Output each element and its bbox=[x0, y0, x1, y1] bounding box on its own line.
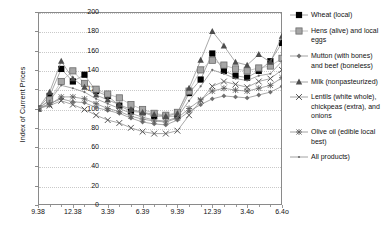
legend-marker-asterisk-icon bbox=[290, 127, 308, 136]
legend-label: Hens (alive) and local eggs bbox=[308, 26, 384, 45]
chart-legend: Wheat (local)Hens (alive) and local eggs… bbox=[290, 10, 384, 168]
legend-item[interactable]: Milk (nonpasteurized) bbox=[290, 77, 384, 86]
x-minor-tick bbox=[61, 205, 62, 207]
x-minor-tick bbox=[84, 205, 85, 207]
x-minor-tick bbox=[282, 205, 283, 207]
x-minor-tick bbox=[73, 205, 74, 207]
x-minor-tick bbox=[177, 205, 178, 207]
x-minor-tick bbox=[189, 205, 190, 207]
x-tick-label: 6.4o bbox=[262, 208, 302, 215]
legend-item[interactable]: Olive oil (edible local best) bbox=[290, 127, 384, 146]
y-axis-title: Index of Current Prices bbox=[18, 25, 27, 185]
x-minor-tick bbox=[143, 205, 144, 207]
legend-marker-tiny-dot-icon bbox=[290, 152, 308, 161]
x-minor-tick bbox=[38, 205, 39, 207]
legend-label: Milk (nonpasteurized) bbox=[308, 77, 384, 86]
price-index-line-chart: Index of Current Prices 0204060801001201… bbox=[0, 0, 384, 236]
legend-item[interactable]: Wheat (local) bbox=[290, 10, 384, 19]
x-minor-tick bbox=[224, 205, 225, 207]
legend-label: Mutton (with bones) and beef (boneless) bbox=[308, 51, 384, 70]
legend-label: Lentils (white whole), chickpeas (extra)… bbox=[308, 92, 384, 120]
x-minor-tick bbox=[259, 205, 260, 207]
legend-marker-small-diamond-icon bbox=[290, 51, 308, 60]
x-minor-tick bbox=[131, 205, 132, 207]
x-minor-tick bbox=[166, 205, 167, 207]
legend-item[interactable]: Hens (alive) and local eggs bbox=[290, 26, 384, 45]
legend-item[interactable]: All products) bbox=[290, 152, 384, 161]
legend-marker-triangle-icon bbox=[290, 77, 308, 86]
x-minor-tick bbox=[201, 205, 202, 207]
series-layer bbox=[38, 12, 282, 205]
x-minor-tick bbox=[96, 205, 97, 207]
legend-label: Olive oil (edible local best) bbox=[308, 127, 384, 146]
x-minor-tick bbox=[270, 205, 271, 207]
x-minor-tick bbox=[154, 205, 155, 207]
x-minor-tick bbox=[212, 205, 213, 207]
legend-label: All products) bbox=[308, 152, 384, 161]
x-minor-tick bbox=[108, 205, 109, 207]
x-minor-tick bbox=[50, 205, 51, 207]
legend-item[interactable]: Mutton (with bones) and beef (boneless) bbox=[290, 51, 384, 70]
legend-marker-gray-square-icon bbox=[290, 26, 308, 35]
x-minor-tick bbox=[247, 205, 248, 207]
legend-marker-x-cross-icon bbox=[290, 92, 308, 101]
legend-marker-filled-square-icon bbox=[290, 10, 308, 19]
x-minor-tick bbox=[119, 205, 120, 207]
x-minor-tick bbox=[236, 205, 237, 207]
legend-label: Wheat (local) bbox=[308, 10, 384, 19]
legend-item[interactable]: Lentils (white whole), chickpeas (extra)… bbox=[290, 92, 384, 120]
